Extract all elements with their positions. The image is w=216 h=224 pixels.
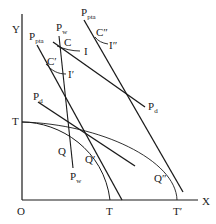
pw-bottom-label: Pw [70,170,82,185]
t-x-intercept-label: T [106,205,113,217]
point-q-dprime-label: Q″ [154,172,167,184]
origin-label: O [17,205,25,217]
point-c-prime-label: C′ [47,55,57,67]
point-c-label: C [64,36,71,48]
point-q-prime-label: Q′ [85,153,95,165]
pd-long-label: Pd [148,100,158,115]
indifference-i-label: I [84,45,88,57]
y-axis-label: Y [12,23,20,35]
point-q-label: Q [58,145,66,157]
t-y-intercept-label: T [12,115,19,127]
inner-ppf-curve [22,122,110,200]
ppta-right-label: Ppta [81,6,97,21]
outer-ppf-curve [22,122,177,200]
indifference-i-dprime-label: I″ [109,39,117,51]
indifference-i-prime-label: I′ [68,68,74,80]
point-c-dprime-label: C″ [96,26,108,38]
pw-top-label: Pw [56,21,68,36]
x-axis-label: X [202,195,210,207]
pd-long-line [53,42,145,107]
t-prime-x-intercept-label: T′ [173,205,182,217]
ppta-left-label: Ppta [29,30,45,45]
trade-diagram: Y X O T T T′ Pw Pw Ppta Ppta Pd Pd C C′ … [0,0,216,224]
